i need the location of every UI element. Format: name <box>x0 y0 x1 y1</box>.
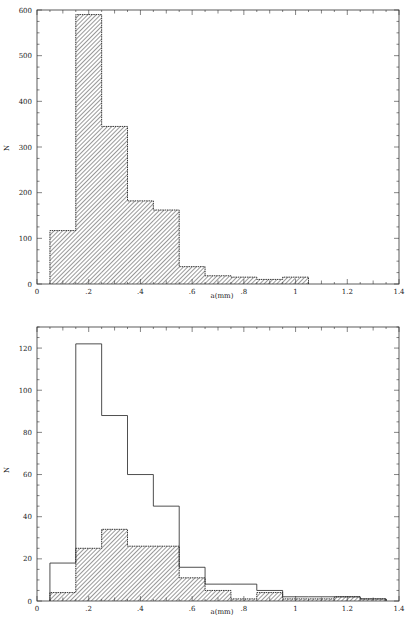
x-tick-label: 1.2 <box>342 288 353 296</box>
y-tick-label: 600 <box>19 7 32 15</box>
x-tick-label: 1.4 <box>393 288 405 296</box>
series-all <box>50 15 309 284</box>
y-tick-label: 0 <box>28 281 32 289</box>
y-tick-label: 0 <box>28 598 32 606</box>
histogram-bar <box>102 529 128 601</box>
x-axis-label: a(mm) <box>211 292 234 300</box>
y-tick-label: 40 <box>23 513 32 521</box>
histogram-bar <box>76 15 102 284</box>
y-axis-label: N <box>3 467 11 473</box>
x-tick-label: 0 <box>35 288 39 296</box>
histogram-bar <box>128 201 154 284</box>
x-tick-label: .8 <box>241 288 248 296</box>
x-tick-label: .8 <box>241 605 248 613</box>
y-tick-label: 80 <box>23 429 32 437</box>
histogram-bar <box>102 126 128 284</box>
x-tick-label: 1 <box>293 288 297 296</box>
y-axis-label: N <box>3 145 11 151</box>
x-tick-label: .6 <box>189 288 196 296</box>
histogram-figure: 0.2.4.6.811.21.40100200300400500600a(mm)… <box>0 0 414 627</box>
x-axis-label: a(mm) <box>211 608 234 616</box>
x-tick-label: .2 <box>85 605 92 613</box>
x-tick-label: 1.2 <box>342 605 353 613</box>
y-tick-label: 400 <box>19 98 32 106</box>
x-tick-label: 0 <box>35 605 39 613</box>
x-tick-label: 1 <box>293 605 297 613</box>
x-tick-label: 1.4 <box>393 605 405 613</box>
y-tick-label: 300 <box>19 144 32 152</box>
top-histogram: 0.2.4.6.811.21.40100200300400500600a(mm)… <box>3 7 405 301</box>
series-hatched <box>50 529 386 601</box>
y-tick-label: 60 <box>23 471 32 479</box>
y-tick-label: 500 <box>19 52 32 60</box>
histogram-bar <box>153 546 179 601</box>
y-tick-label: 100 <box>19 235 32 243</box>
x-tick-label: .6 <box>189 605 196 613</box>
histogram-bar <box>153 210 179 284</box>
histogram-bar <box>128 546 154 601</box>
x-tick-label: .2 <box>85 288 92 296</box>
histogram-bar <box>76 548 102 601</box>
x-tick-label: .4 <box>137 288 144 296</box>
y-tick-label: 120 <box>19 345 32 353</box>
y-tick-label: 100 <box>19 387 32 395</box>
x-tick-label: .4 <box>137 605 144 613</box>
bottom-histogram: 0.2.4.6.811.21.4020406080100120a(mm)N <box>3 327 405 616</box>
y-tick-label: 200 <box>19 189 32 197</box>
histogram-bar <box>50 231 76 284</box>
y-tick-label: 20 <box>23 555 32 563</box>
